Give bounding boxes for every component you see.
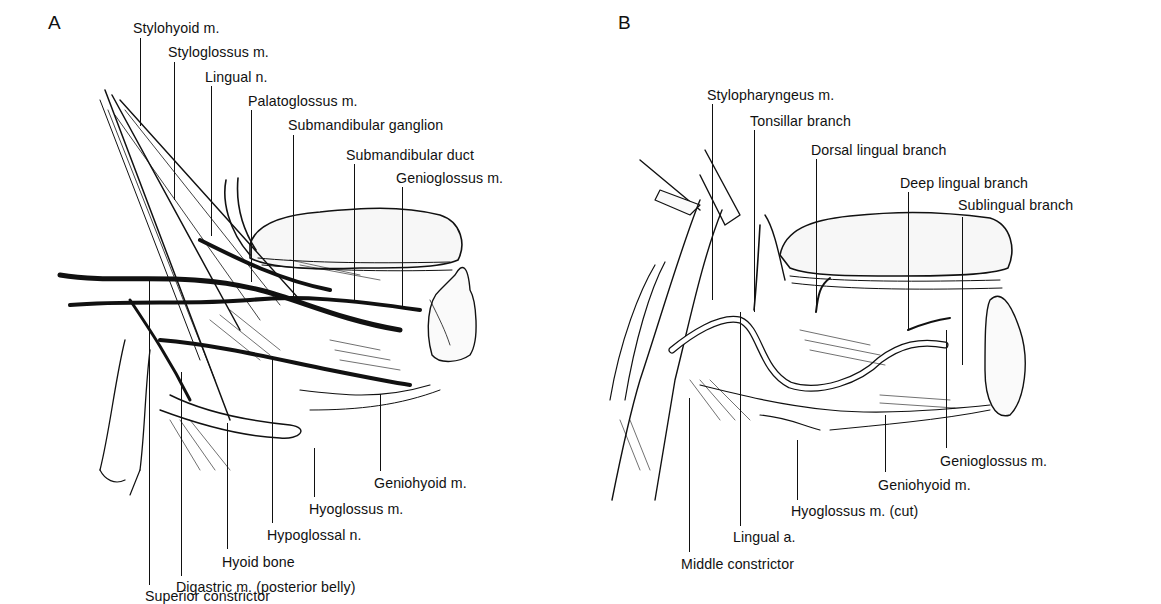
leader-line-digastric: [181, 372, 182, 576]
leader-line-lingual-nerve: [211, 86, 212, 236]
leader-line-geniohyoid-b: [885, 415, 886, 472]
anatomy-figure: A Stylohyoid m. Styloglossus m. Lingual …: [0, 0, 1161, 604]
label-stylopharyngeus: Stylopharyngeus m.: [707, 87, 834, 103]
label-lingual-nerve: Lingual n.: [205, 69, 268, 85]
label-superior-constrictor: Superior constrictor: [145, 588, 270, 604]
leader-line-submandibular-duct: [354, 164, 355, 300]
leader-line-sublingual-branch: [962, 217, 963, 365]
leader-line-submandibular-ganglion: [293, 135, 294, 298]
label-submandibular-duct: Submandibular duct: [346, 147, 474, 163]
leader-line-genioglossus-b: [946, 330, 947, 448]
label-tonsillar-branch: Tonsillar branch: [750, 113, 851, 129]
leader-line-hyoid-bone: [227, 423, 228, 549]
leader-line-styloglossus: [174, 62, 175, 200]
leader-line-deep-lingual-branch: [908, 192, 909, 330]
panel-a-letter: A: [48, 12, 61, 34]
leader-line-stylopharyngeus: [712, 104, 713, 300]
label-hyoglossus-cut: Hyoglossus m. (cut): [791, 503, 918, 519]
label-styloglossus: Styloglossus m.: [168, 44, 269, 60]
label-middle-constrictor: Middle constrictor: [681, 556, 794, 572]
leader-line-superior-constrictor: [149, 280, 150, 585]
label-lingual-artery: Lingual a.: [733, 529, 796, 545]
label-submandibular-ganglion: Submandibular ganglion: [288, 117, 443, 133]
leader-line-stylohyoid: [140, 38, 141, 126]
label-hyoglossus-a: Hyoglossus m.: [309, 501, 403, 517]
leader-line-genioglossus-a: [402, 187, 403, 306]
leader-line-hypoglossal-nerve: [272, 357, 273, 523]
leader-line-middle-constrictor: [689, 398, 690, 552]
label-hyoid-bone: Hyoid bone: [222, 554, 295, 570]
label-geniohyoid-a: Geniohyoid m.: [374, 475, 467, 491]
panel-b-letter: B: [618, 12, 631, 34]
label-genioglossus-a: Genioglossus m.: [396, 170, 503, 186]
leader-line-tonsillar-branch: [754, 130, 755, 312]
label-deep-lingual-branch: Deep lingual branch: [900, 175, 1028, 191]
label-stylohyoid: Stylohyoid m.: [133, 20, 219, 36]
label-genioglossus-b: Genioglossus m.: [940, 453, 1047, 469]
label-hypoglossal-nerve: Hypoglossal n.: [267, 527, 361, 543]
leader-line-lingual-artery: [740, 312, 741, 526]
leader-line-palatoglossus: [251, 110, 252, 282]
label-palatoglossus: Palatoglossus m.: [248, 93, 358, 109]
label-dorsal-lingual-branch: Dorsal lingual branch: [811, 142, 946, 158]
label-sublingual-branch: Sublingual branch: [958, 197, 1073, 213]
leader-line-dorsal-lingual-branch: [816, 159, 817, 312]
label-geniohyoid-b: Geniohyoid m.: [878, 477, 971, 493]
leader-line-hyoglossus-a: [314, 448, 315, 497]
leader-line-geniohyoid-a: [380, 394, 381, 471]
leader-line-hyoglossus-cut: [797, 440, 798, 500]
